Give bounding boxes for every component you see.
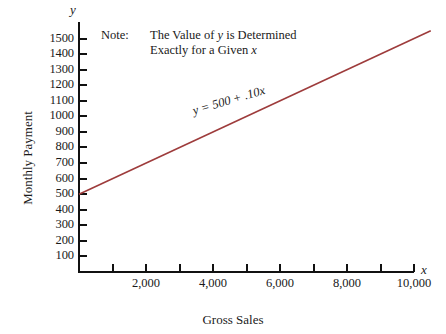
note-line-1-post: is Determined (223, 28, 297, 42)
note-line-2-variable: x (251, 43, 257, 57)
note-line-2-pre: Exactly for a Given (150, 43, 251, 57)
line-chart: y x Monthly Payment Gross Sales 10020030… (0, 0, 446, 334)
note-line-1: The Value of y is Determined (150, 28, 297, 43)
note-label: Note: (101, 28, 129, 43)
note-line-1-pre: The Value of (150, 28, 217, 42)
note-body: The Value of y is Determined Exactly for… (150, 28, 297, 58)
note-line-2: Exactly for a Given x (150, 43, 297, 58)
